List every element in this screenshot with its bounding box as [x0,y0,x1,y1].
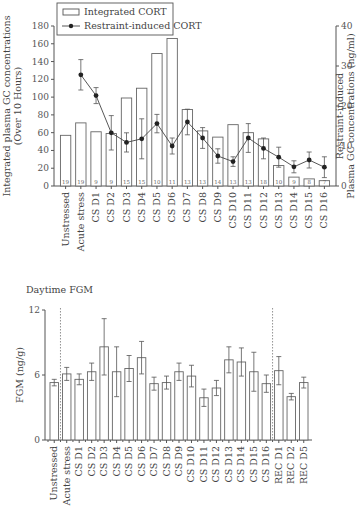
x-tick-label: Acute stress [61,446,72,506]
x-tick-label: Unstressed [48,446,59,500]
legend-label-restraint: Restraint-induced CORT [84,20,202,31]
left-y-tick-label: 180 [32,21,49,31]
bar-n-label: 15 [138,179,145,185]
restraint-induced-cort-point [109,130,114,135]
x-tick-label: CS D16 [260,446,271,483]
bar-n-label: 11 [169,179,176,185]
bar-n-label: 9 [94,179,98,185]
y-axis-label: FGM (ng/g) [14,347,25,403]
x-tick-label: CS D6 [136,446,147,476]
y-tick-label: 6 [34,370,40,380]
x-tick-label: CS D14 [235,446,246,483]
fgm-bar [300,383,308,440]
x-tick-label: CS D3 [121,192,132,222]
x-tick-label: CS D5 [151,192,162,222]
restraint-induced-cort-point [200,136,205,141]
bar-n-label: 14 [214,179,221,185]
bar-n-label: 9 [292,179,296,185]
bar-n-label: 9 [110,179,114,185]
x-tick-label: CS D7 [148,446,159,476]
x-tick-label: CS D12 [210,446,221,483]
right-y-axis-label: Plasma GC concentrations (ng/ml) [345,33,356,198]
fgm-bar [50,383,58,440]
left-y-axis-label: Integrated plasma GC concentrations [1,15,12,196]
left-y-tick-label: 80 [38,110,50,120]
fgm-bar [75,379,83,440]
x-tick-label: CS D9 [173,446,184,476]
figure: 020406080100120140160180010203040Integra… [0,0,361,508]
x-tick-label: Unstressed [60,192,71,246]
x-tick-label: CS D2 [105,192,116,222]
bar-n-label: 19 [77,179,84,185]
restraint-induced-cort-point [231,159,236,164]
x-tick-label: CS D15 [303,192,314,229]
restraint-induced-cort-point [170,144,175,149]
y-tick-label: 12 [29,305,40,315]
legend-bar-swatch [63,9,79,15]
x-tick-label: CS D14 [288,192,299,229]
restraint-induced-cort-point [276,155,281,160]
restraint-induced-cort-point [307,158,312,163]
fgm-bar [150,384,158,440]
x-tick-label: CS D13 [223,446,234,483]
right-y-axis-label: Restraint-induced [334,73,345,159]
fgm-bar [87,372,95,440]
x-tick-label: CS D5 [123,446,134,476]
y-tick-label: 0 [34,435,40,445]
bar-n-label: 18 [260,179,267,185]
bar-n-label: 13 [199,179,206,185]
restraint-induced-cort-point [139,136,144,141]
bar-n-label: 10 [153,179,160,185]
bar-n-label: 13 [245,179,252,185]
left-y-tick-label: 100 [32,92,49,102]
left-y-tick-label: 20 [38,163,50,173]
fgm-bar [287,397,295,440]
left-y-axis-label: (Over 10 Hours) [12,67,23,145]
restraint-induced-cort-point [124,140,129,145]
fgm-bar [162,383,170,440]
x-tick-label: CS D1 [90,192,101,222]
integrated-cort-bar [91,132,101,186]
left-y-tick-label: 60 [38,128,50,138]
bar-n-label: 15 [123,179,130,185]
restraint-induced-cort-point [322,165,327,170]
x-tick-label: CS D16 [318,192,329,229]
restraint-induced-cort-point [155,121,160,126]
x-tick-label: CS D8 [197,192,208,222]
x-tick-label: CS D11 [198,446,209,483]
x-tick-label: REC D5 [298,446,309,484]
x-tick-label: CS D3 [98,446,109,476]
fgm-bar [175,372,183,440]
integrated-cort-bar [76,123,86,186]
bar-n-label: 8 [307,179,311,185]
right-y-tick-label: 40 [341,21,353,31]
x-tick-label: REC D2 [285,446,296,484]
left-y-tick-label: 40 [38,145,50,155]
x-tick-label: CS D10 [227,192,238,229]
x-tick-label: CS D4 [111,446,122,476]
legend-point-swatch [69,24,73,28]
restraint-induced-cort-point [78,72,83,77]
x-tick-label: CS D9 [212,192,223,222]
bar-n-label: 10 [275,179,282,185]
integrated-cort-bar [167,38,177,186]
restraint-induced-cort-point [246,136,251,141]
x-tick-label: CS D15 [248,446,259,483]
x-tick-label: CS D1 [73,446,84,476]
bar-n-label: 7 [323,179,327,185]
x-tick-label: REC D1 [273,446,284,484]
x-tick-label: CS D4 [136,192,147,222]
x-tick-label: CS D7 [181,192,192,222]
x-tick-label: CS D13 [273,192,284,229]
restraint-induced-cort-point [94,93,99,98]
bar-n-label: 13 [184,179,191,185]
x-tick-label: CS D6 [166,192,177,222]
bar-n-label: 13 [230,179,237,185]
x-tick-label: CS D12 [258,192,269,229]
restraint-induced-cort-point [185,120,190,125]
left-y-tick-label: 120 [32,74,49,84]
left-y-tick-label: 160 [32,39,49,49]
fgm-bar [62,374,70,440]
restraint-induced-cort-point [261,146,266,151]
x-tick-label: CS D11 [242,192,253,229]
